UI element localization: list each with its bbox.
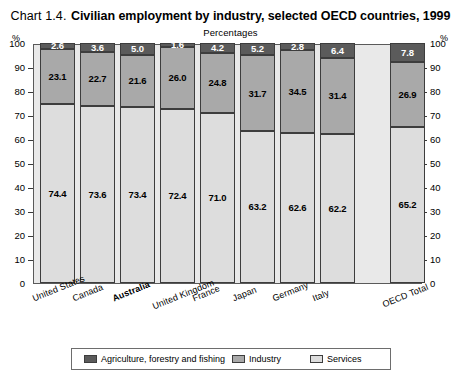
- bar-segment[interactable]: 2.8: [280, 43, 315, 50]
- bar-segment[interactable]: 2.6: [40, 43, 75, 49]
- bar-segment[interactable]: 62.6: [280, 133, 315, 283]
- bar-value-label: 72.4: [168, 191, 186, 201]
- bar-segment[interactable]: 31.7: [240, 55, 275, 131]
- bar-value-label: 5.2: [251, 44, 264, 54]
- bar-value-label: 4.2: [211, 43, 224, 53]
- y-axis-tick-label: 20: [430, 231, 452, 241]
- y-axis-tick-label: 60: [5, 135, 25, 145]
- y-axis-tick-label: 30: [430, 207, 452, 217]
- bar-segment[interactable]: 21.6: [120, 55, 155, 107]
- bar-segment[interactable]: 62.2: [320, 134, 355, 283]
- legend-item[interactable]: Agriculture, forestry and fishing: [84, 355, 225, 364]
- bar-value-label: 31.7: [248, 89, 266, 99]
- bar-segment[interactable]: 65.2: [390, 127, 425, 283]
- title-line: Chart 1.4. Civilian employment by indust…: [0, 6, 461, 24]
- bar-segment[interactable]: 31.4: [320, 58, 355, 133]
- bar-value-label: 63.2: [248, 202, 266, 212]
- page-title: Civilian employment by industry, selecte…: [71, 9, 450, 23]
- legend-item[interactable]: Industry: [232, 355, 281, 364]
- bar-value-label: 26.0: [168, 73, 186, 83]
- x-axis-labels: United StatesCanadaAustraliaUnited Kingd…: [0, 286, 461, 342]
- legend-swatch-icon: [84, 355, 97, 363]
- y-axis-tick-label: 40: [430, 183, 452, 193]
- bar-germany[interactable]: 62.634.52.8: [280, 43, 315, 283]
- bar-segment[interactable]: 26.9: [390, 62, 425, 127]
- bar-japan[interactable]: 63.231.75.2: [240, 43, 275, 283]
- y-axis-tick-label: 50: [5, 159, 25, 169]
- chart-subtitle: Percentages: [0, 27, 461, 38]
- legend-label: Services: [327, 355, 362, 364]
- bar-value-label: 23.1: [48, 72, 66, 82]
- bar-value-label: 21.6: [128, 76, 146, 86]
- bar-segment[interactable]: 63.2: [240, 131, 275, 283]
- bar-italy[interactable]: 62.231.46.4: [320, 43, 355, 283]
- bar-segment[interactable]: 5.0: [120, 43, 155, 55]
- y-axis-tick-label: 40: [5, 183, 25, 193]
- bar-segment[interactable]: 74.4: [40, 104, 75, 283]
- bar-australia[interactable]: 73.421.65.0: [120, 43, 155, 283]
- bar-segment[interactable]: 72.4: [160, 109, 195, 283]
- y-axis-right-labels: 0102030405060708090100: [430, 44, 454, 284]
- bar-value-label: 34.5: [288, 87, 306, 97]
- y-axis-tick-label: 50: [430, 159, 452, 169]
- x-axis-label-italy: Italy: [311, 288, 331, 304]
- bar-segment[interactable]: 34.5: [280, 50, 315, 133]
- bar-value-label: 31.4: [328, 91, 346, 101]
- bar-value-label: 2.8: [291, 42, 304, 52]
- y-axis-left-labels: 0102030405060708090100: [5, 44, 25, 284]
- bar-value-label: 2.6: [51, 41, 64, 51]
- bar-value-label: 24.8: [208, 78, 226, 88]
- legend-label: Agriculture, forestry and fishing: [101, 355, 225, 364]
- y-axis-tick-label: 10: [430, 255, 452, 265]
- bar-oecd-total[interactable]: 65.226.97.8: [390, 43, 425, 283]
- x-axis-label-oecd-total: OECD Total: [381, 282, 430, 309]
- bar-segment[interactable]: 22.7: [80, 52, 115, 106]
- y-axis-tick-label: 100: [430, 39, 452, 49]
- chart-number: Chart 1.4.: [11, 9, 67, 23]
- bar-value-label: 22.7: [88, 74, 106, 84]
- bar-value-label: 62.2: [328, 204, 346, 214]
- y-axis-tick-label: 30: [5, 207, 25, 217]
- bar-segment[interactable]: 6.4: [320, 43, 355, 58]
- y-axis-tick-label: 70: [430, 111, 452, 121]
- y-axis-tick-label: 80: [430, 87, 452, 97]
- bar-segment[interactable]: 5.2: [240, 43, 275, 55]
- bar-value-label: 73.4: [128, 190, 146, 200]
- bar-value-label: 71.0: [208, 193, 226, 203]
- bar-united-states[interactable]: 74.423.12.6: [40, 43, 75, 283]
- bar-value-label: 26.9: [398, 90, 416, 100]
- bar-segment[interactable]: 7.8: [390, 43, 425, 62]
- bar-segment[interactable]: 23.1: [40, 49, 75, 104]
- bar-value-label: 74.4: [48, 189, 66, 199]
- bar-value-label: 6.4: [331, 46, 344, 56]
- legend-label: Industry: [249, 355, 281, 364]
- bar-segment[interactable]: 26.0: [160, 47, 195, 109]
- bar-united-kingdom[interactable]: 72.426.01.6: [160, 43, 195, 283]
- y-axis-tick-label: 90: [5, 63, 25, 73]
- bar-segment[interactable]: 1.6: [160, 43, 195, 47]
- chart-legend: Agriculture, forestry and fishingIndustr…: [71, 348, 391, 370]
- legend-item[interactable]: Services: [310, 355, 362, 364]
- y-axis-tick-label: 10: [5, 255, 25, 265]
- y-axis-tick-label: 100: [5, 39, 25, 49]
- y-axis-tick-label: 70: [5, 111, 25, 121]
- bar-value-label: 73.6: [88, 190, 106, 200]
- bar-segment[interactable]: 73.4: [120, 107, 155, 283]
- y-axis-tick-label: 80: [5, 87, 25, 97]
- y-axis-tick-label: 20: [5, 231, 25, 241]
- bar-segment[interactable]: 3.6: [80, 43, 115, 52]
- bar-segment[interactable]: 73.6: [80, 106, 115, 283]
- x-axis-label-japan: Japan: [231, 285, 258, 304]
- bar-canada[interactable]: 73.622.73.6: [80, 43, 115, 283]
- bar-france[interactable]: 71.024.84.2: [200, 43, 235, 283]
- y-axis-tick-label: 60: [430, 135, 452, 145]
- bar-value-label: 1.6: [171, 40, 184, 50]
- chart-header: Chart 1.4. Civilian employment by indust…: [0, 6, 461, 38]
- plot-area: 74.423.12.673.622.73.673.421.65.072.426.…: [33, 44, 422, 284]
- bar-value-label: 7.8: [401, 48, 414, 58]
- bar-segment[interactable]: 24.8: [200, 53, 235, 113]
- bar-segment[interactable]: 4.2: [200, 43, 235, 53]
- bar-segment[interactable]: 71.0: [200, 113, 235, 283]
- legend-swatch-icon: [310, 355, 323, 363]
- y-axis-tick-label: 90: [430, 63, 452, 73]
